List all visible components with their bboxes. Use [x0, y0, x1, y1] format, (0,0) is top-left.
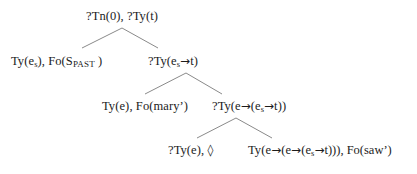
edge-es-t-to-e-es-t: [186, 73, 222, 94]
edge-es-t-to-mary: [145, 73, 186, 94]
arrow-icon: →: [241, 99, 251, 113]
arrow-icon: →: [291, 143, 301, 157]
tree-node-mary: Ty(e), Fo(mary’): [102, 100, 188, 113]
node-saw-prefix: Ty(e: [248, 143, 271, 157]
diamond-pointer-icon: ◊: [207, 143, 213, 157]
tree-node-es-to-t: ?Ty(es→t): [148, 55, 198, 68]
node-e-est-mid: (e: [251, 99, 261, 113]
tree-node-e-to-es-t: ?Ty(e→(es→t)): [212, 100, 286, 113]
arrow-icon: →: [180, 54, 190, 68]
tree-node-root: ?Tn(0), ?Ty(t): [86, 10, 158, 23]
tree-node-tense: Ty(es), Fo(SPAST ): [11, 55, 102, 69]
node-saw-mid2: (e: [301, 143, 311, 157]
node-saw-mid1: (e: [281, 143, 291, 157]
node-pointer-prefix: ?Ty(e),: [168, 143, 207, 157]
node-mary-label: Ty(e), Fo(mary’): [102, 99, 188, 113]
node-tense-smallcaps-past: PAST: [73, 59, 95, 69]
node-e-est-prefix: ?Ty(e: [212, 99, 241, 113]
tree-diagram-canvas: ?Tn(0), ?Ty(t) Ty(es), Fo(SPAST ) ?Ty(es…: [0, 0, 417, 174]
node-root-label: ?Tn(0), ?Ty(t): [86, 9, 158, 23]
arrow-icon: →: [264, 99, 274, 113]
node-tense-mid: ), Fo(S: [37, 54, 72, 68]
arrow-icon: →: [314, 143, 324, 157]
node-saw-suffix: t))), Fo(saw’): [324, 143, 391, 157]
arrow-icon: →: [271, 143, 281, 157]
edge-root-to-es-t: [122, 28, 158, 48]
node-es-t-suffix: t): [190, 54, 198, 68]
edge-e-es-t-to-pointer: [197, 118, 236, 138]
node-tense-prefix: Ty(e: [11, 54, 34, 68]
edge-e-es-t-to-saw: [236, 118, 272, 138]
node-tense-suffix: ): [95, 54, 103, 68]
node-e-est-suffix: t)): [274, 99, 286, 113]
tree-node-saw: Ty(e→(e→(es→t))), Fo(saw’): [248, 144, 392, 157]
edge-root-to-tense: [82, 28, 122, 48]
node-es-t-prefix: ?Ty(e: [148, 54, 177, 68]
tree-node-pointer: ?Ty(e), ◊: [168, 144, 213, 157]
